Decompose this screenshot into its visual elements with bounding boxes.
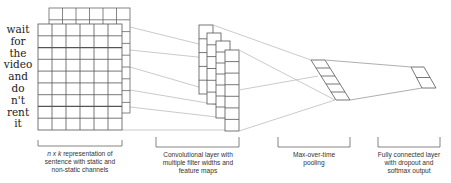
caption-input-math: n x k <box>47 150 61 157</box>
caption-input-line3: non-static channels <box>30 166 130 174</box>
caption-fc-line2: with dropout and <box>368 159 450 167</box>
caption-pool-line2: pooling <box>270 159 358 167</box>
input-grid-front-channel <box>38 24 122 130</box>
input-word: n't <box>0 95 36 107</box>
caption-conv-line3: feature maps <box>147 167 249 175</box>
bracket-fc <box>378 137 440 147</box>
bracket-pooling <box>278 137 350 147</box>
caption-pool-line1: Max-over-time <box>270 151 358 159</box>
input-word: for <box>0 36 36 48</box>
caption-conv-line1: Convolutional layer with <box>147 151 249 159</box>
caption-input-line2: sentence with static and <box>30 158 130 166</box>
conv-feature-maps <box>199 25 239 131</box>
feature-map-4 <box>225 50 239 131</box>
input-word: it <box>0 118 36 130</box>
caption-conv: Convolutional layer with multiple filter… <box>147 151 249 176</box>
caption-input-line1: representation of <box>61 150 112 157</box>
max-pool-vector <box>311 60 350 100</box>
section-brackets <box>38 137 440 147</box>
caption-pooling: Max-over-time pooling <box>270 151 358 167</box>
bracket-conv <box>156 137 239 147</box>
caption-fc-line3: softmax output <box>368 167 450 175</box>
caption-fc-line1: Fully connected layer <box>368 151 450 159</box>
caption-input: n x k representation of sentence with st… <box>30 150 130 175</box>
caption-conv-line2: multiple filter widths and <box>147 159 249 167</box>
bracket-input <box>38 140 122 146</box>
cnn-diagram: wait for the video and do n't rent it n … <box>0 0 451 183</box>
caption-fc: Fully connected layer with dropout and s… <box>368 151 450 176</box>
softmax-output-vector <box>411 67 436 88</box>
